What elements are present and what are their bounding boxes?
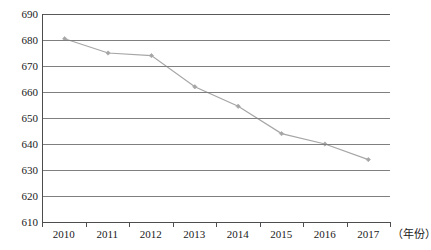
x-axis-tick-label: 2017 xyxy=(357,229,379,240)
x-axis-line xyxy=(42,222,390,223)
data-line xyxy=(65,39,369,160)
y-axis-tick-label: 690 xyxy=(4,9,38,20)
plot-area xyxy=(42,14,390,222)
x-axis-tick-label: 2011 xyxy=(96,229,118,240)
line-chart: 690680670660650640630620610 201020112012… xyxy=(0,0,431,250)
x-axis-tick-label: 2012 xyxy=(140,229,162,240)
x-axis-tick-label: 2016 xyxy=(314,229,336,240)
gridline xyxy=(43,144,390,145)
y-axis-tick-label: 650 xyxy=(4,113,38,124)
gridline xyxy=(43,66,390,67)
x-axis-tick-label: 2014 xyxy=(227,229,249,240)
y-axis-tick-label: 660 xyxy=(4,87,38,98)
y-axis-tick-label: 610 xyxy=(4,217,38,228)
data-point-marker xyxy=(366,157,370,161)
gridline xyxy=(43,40,390,41)
y-axis-tick-label: 620 xyxy=(4,191,38,202)
gridline xyxy=(43,118,390,119)
gridline xyxy=(43,14,390,15)
x-axis: 20102011201220132014201520162017 xyxy=(42,222,390,250)
data-point-marker xyxy=(106,51,110,55)
x-axis-tick-label: 2013 xyxy=(183,229,205,240)
y-axis-labels: 690680670660650640630620610 xyxy=(4,0,38,250)
y-axis-tick-label: 630 xyxy=(4,165,38,176)
gridline xyxy=(43,196,390,197)
x-axis-title: （年份） xyxy=(392,229,431,240)
gridline xyxy=(43,170,390,171)
gridline xyxy=(43,92,390,93)
y-axis-tick-label: 680 xyxy=(4,35,38,46)
x-axis-tick-label: 2010 xyxy=(53,229,75,240)
y-axis-tick-label: 640 xyxy=(4,139,38,150)
y-axis-tick-label: 670 xyxy=(4,61,38,72)
x-axis-tick-mark xyxy=(390,222,391,227)
x-axis-tick-label: 2015 xyxy=(270,229,292,240)
